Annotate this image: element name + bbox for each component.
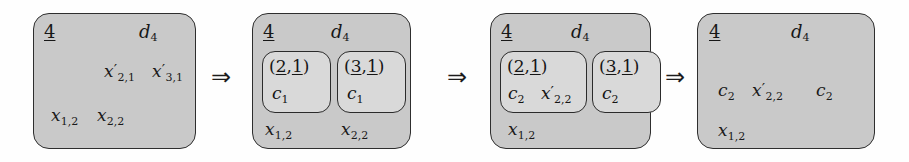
state-2-cell-1-content-c1: c1 [272, 83, 289, 106]
state-3-cell-2-content-c2: c2 [602, 83, 619, 106]
state-3-cell-1-pair: (2,1) [507, 56, 547, 76]
arrow-state2-to-state3: ⇒ [440, 62, 474, 92]
state-1-header-label: d4 [139, 21, 158, 44]
state-3-cell-1-content-c2: c2 [508, 83, 525, 106]
state-2-cell-1: (2,1) c1 [262, 51, 331, 113]
state-box-2: 4 d4 (2,1) c1 (3,1) c1 x1,2 x2,2 [252, 13, 411, 149]
state-1-corner-index: 4 [44, 21, 55, 42]
state-4-term-c2-first: c2 [718, 80, 735, 103]
state-1-term-x22: x2,2 [97, 105, 124, 128]
state-3-corner-index: 4 [501, 21, 512, 42]
state-4-term-c2-second: c2 [816, 80, 833, 103]
state-1-term-x31-prime: x′3,1 [152, 61, 183, 84]
state-4-header-label: d4 [791, 21, 810, 44]
state-4-term-x12: x1,2 [718, 120, 745, 143]
state-2-cell-2-content-c1: c1 [347, 83, 364, 106]
state-4-term-x22-prime: x′2,2 [752, 80, 783, 103]
state-2-corner-index: 4 [263, 21, 274, 42]
state-3-cell-1-content-x22-prime: x′2,2 [541, 83, 572, 106]
arrow-state3-to-state4: ⇒ [658, 62, 692, 92]
state-3-cell-2-pair: (3,1) [599, 56, 639, 76]
state-3-header-label: d4 [571, 21, 590, 44]
state-2-cell-2-pair: (3,1) [344, 56, 384, 76]
state-1-term-x21-prime: x′2,1 [104, 61, 135, 84]
state-box-4: 4 d4 c2 x′2,2 c2 x1,2 [697, 13, 875, 149]
state-4-corner-index: 4 [709, 21, 720, 42]
state-3-cell-2: (3,1) c2 [592, 51, 661, 113]
state-3-term-x12: x1,2 [508, 119, 535, 142]
state-box-3: 4 d4 (2,1) c2 x′2,2 (3,1) c2 x1,2 [490, 13, 651, 149]
arrow-state1-to-state2: ⇒ [204, 62, 238, 92]
state-1-term-x12: x1,2 [51, 105, 78, 128]
state-3-cell-1: (2,1) c2 x′2,2 [500, 51, 587, 113]
state-2-cell-1-pair: (2,1) [269, 56, 309, 76]
rewriting-sequence-diagram: 4 d4 x′2,1 x′3,1 x1,2 x2,2 ⇒ 4 d4 (2,1) … [0, 0, 909, 162]
state-box-1: 4 d4 x′2,1 x′3,1 x1,2 x2,2 [33, 13, 196, 149]
state-2-term-x22: x2,2 [341, 119, 368, 142]
state-2-header-label: d4 [331, 21, 350, 44]
state-2-cell-2: (3,1) c1 [337, 51, 406, 113]
state-2-term-x12: x1,2 [265, 119, 292, 142]
